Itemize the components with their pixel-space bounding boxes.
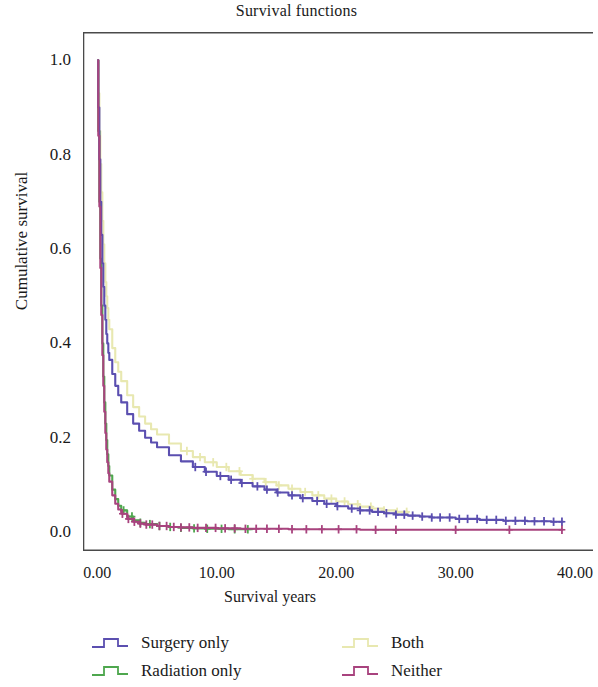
x-axis-title: Survival years xyxy=(0,588,540,606)
legend-label: Radiation only xyxy=(141,661,242,681)
legend-swatch-icon xyxy=(91,634,129,652)
x-tick-label: 0.00 xyxy=(52,565,142,581)
legend-swatch-icon xyxy=(91,662,129,680)
legend-item-neither[interactable]: Neither xyxy=(341,658,442,684)
curve-surgery-only xyxy=(97,60,565,526)
chart-title: Survival functions xyxy=(0,2,593,20)
plot-area xyxy=(83,32,593,551)
legend-item-radiation-only[interactable]: Radiation only xyxy=(91,658,242,684)
survival-curves-svg xyxy=(83,32,593,551)
y-tick-label: 0.0 xyxy=(11,523,71,540)
legend-item-both[interactable]: Both xyxy=(341,630,424,656)
x-tick-label: 30.00 xyxy=(411,565,501,581)
legend-label: Neither xyxy=(391,661,442,681)
legend-label: Both xyxy=(391,633,424,653)
curve-neither xyxy=(97,60,565,534)
x-tick-label: 40.00 xyxy=(530,565,598,581)
curve-radiation-only xyxy=(97,60,252,533)
axis-ticks xyxy=(83,60,575,551)
legend-swatch-icon xyxy=(341,634,379,652)
curve-both xyxy=(97,60,410,516)
survival-curves xyxy=(97,60,565,534)
legend-item-surgery-only[interactable]: Surgery only xyxy=(91,630,229,656)
plot-frame xyxy=(83,32,593,551)
legend-swatch-icon xyxy=(341,662,379,680)
x-tick-label: 10.00 xyxy=(172,565,262,581)
legend-label: Surgery only xyxy=(141,633,229,653)
chart-legend: Surgery onlyRadiation onlyBothNeither xyxy=(83,630,593,686)
y-axis-title: Cumulative survival xyxy=(12,31,32,451)
x-tick-label: 20.00 xyxy=(291,565,381,581)
